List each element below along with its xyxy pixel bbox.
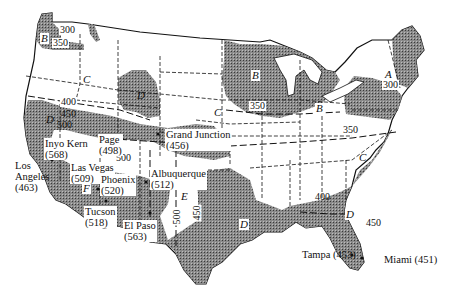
city-value: (498)	[99, 145, 122, 156]
zone-label-d-southeast: D	[345, 209, 355, 220]
contour-450-west: 450	[60, 109, 77, 119]
contour-300-northeast: 300	[382, 80, 399, 90]
city-name: El Paso	[124, 220, 156, 231]
city-value: (520)	[101, 185, 135, 196]
contour-450-southeast: 450	[365, 218, 382, 228]
city-label-tucson: Tucson (518)	[84, 206, 117, 228]
zone-label-c-plains: C	[213, 107, 222, 118]
city-label-inyo-kern: Inyo Kern (568)	[44, 138, 89, 160]
city-label-phoenix: Phoenix (520)	[100, 174, 136, 196]
city-value: (456)	[166, 140, 230, 151]
city-name: Las Vegas	[71, 162, 114, 173]
zone-label-c-east: C	[358, 152, 367, 163]
contour-350-midwest: 350	[249, 101, 266, 111]
zone-label-c-west: C	[82, 74, 91, 85]
city-name: Albuquerque	[151, 168, 206, 179]
zone-label-b-ohio: B	[315, 103, 324, 114]
contour-300-northwest: 300	[59, 25, 76, 35]
contour-450-texas: 450	[192, 205, 202, 222]
contour-400-southeast: 400	[314, 192, 331, 202]
city-label-el-paso: El Paso (563)	[123, 220, 157, 242]
contour-350-east: 350	[342, 125, 359, 135]
city-name: Inyo Kern	[45, 138, 88, 149]
city-label-albuquerque: Albuquerque (512)	[150, 168, 207, 190]
contour-500-texas: 500	[172, 209, 182, 226]
city-label-miami: Miami (451)	[384, 254, 437, 265]
city-name: Tucson	[85, 206, 116, 217]
city-name-line2: Angeles	[15, 171, 49, 182]
city-value: (512)	[151, 179, 206, 190]
city-value: (463)	[15, 182, 49, 193]
city-name: Miami (451)	[384, 254, 437, 265]
zone-label-d-rockies: D	[136, 90, 146, 101]
city-name: Page	[99, 134, 122, 145]
city-name: Tampa (453)	[302, 249, 356, 260]
zone-label-e-west: D	[45, 114, 55, 125]
zone-label-b-northwest: B	[40, 33, 49, 44]
city-label-los-angeles: Los Angeles (463)	[15, 160, 49, 193]
city-value: (563)	[124, 231, 156, 242]
city-name: Los	[15, 160, 49, 171]
zone-label-b-midwest: B	[251, 70, 260, 81]
city-label-grand-junction: Grand Junction (456)	[165, 129, 231, 151]
contour-500-west: 500	[56, 120, 73, 130]
city-label-tampa: Tampa (453)	[302, 249, 356, 260]
city-name: Grand Junction	[166, 129, 230, 140]
contour-400-west: 400	[60, 97, 77, 107]
city-value: (518)	[85, 217, 116, 228]
zone-label-f-arizona: F	[82, 183, 91, 194]
city-label-page: Page (498)	[98, 134, 123, 156]
zone-label-d-texas: D	[239, 219, 249, 230]
contour-350-northwest: 350	[52, 38, 69, 48]
zone-label-e-newmexico: E	[180, 191, 189, 202]
city-value: (568)	[45, 149, 88, 160]
city-name: Phoenix	[101, 174, 135, 185]
